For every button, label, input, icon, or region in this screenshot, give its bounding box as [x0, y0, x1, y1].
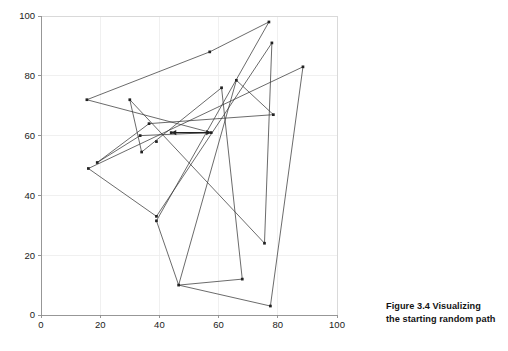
path-point-marker — [208, 51, 211, 54]
figure-container: 020406080100 020406080100 Figure 3.4 Vis… — [0, 0, 508, 351]
path-polyline — [87, 22, 303, 306]
path-point-marker — [148, 122, 151, 125]
path-point-marker — [96, 161, 99, 164]
x-axis-tick-labels: 020406080100 — [38, 319, 345, 330]
x-tick-label: 100 — [329, 319, 345, 330]
path-point-markers — [86, 21, 305, 308]
path-point-marker — [140, 151, 143, 154]
path-point-marker — [220, 86, 223, 89]
y-tick-label: 80 — [24, 70, 35, 81]
path-point-marker — [155, 215, 158, 218]
path-point-marker — [272, 113, 275, 116]
path-point-marker — [268, 21, 271, 24]
x-tick-label: 20 — [95, 319, 106, 330]
path-point-marker — [155, 219, 158, 222]
path-point-marker — [177, 284, 180, 287]
path-point-marker — [263, 242, 266, 245]
tick-marks — [38, 16, 337, 318]
path-point-marker — [241, 278, 244, 281]
path-point-marker — [269, 305, 272, 308]
y-tick-label: 100 — [19, 10, 35, 21]
path-point-marker — [302, 65, 305, 68]
y-tick-label: 60 — [24, 130, 35, 141]
y-tick-label: 0 — [30, 309, 35, 320]
random-path-chart: 020406080100 020406080100 — [0, 0, 508, 351]
path-point-marker — [87, 167, 90, 170]
figure-caption-line-1: Figure 3.4 Visualizing — [386, 301, 481, 311]
x-tick-label: 0 — [38, 319, 43, 330]
path-point-marker — [128, 98, 131, 101]
grid-lines — [41, 16, 337, 315]
path-point-marker — [271, 42, 274, 45]
path-point-marker — [139, 134, 142, 137]
tour-polyline — [87, 22, 303, 306]
path-point-marker — [86, 98, 89, 101]
y-axis-tick-labels: 020406080100 — [19, 10, 35, 320]
path-point-marker — [155, 140, 158, 143]
x-tick-label: 40 — [154, 319, 165, 330]
figure-caption: Figure 3.4 Visualizing the starting rand… — [386, 300, 504, 325]
annotation-arrowhead-right — [206, 130, 211, 135]
path-point-marker — [235, 79, 238, 82]
plot-frame — [41, 16, 337, 315]
x-tick-label: 60 — [213, 319, 224, 330]
y-tick-label: 40 — [24, 190, 35, 201]
y-tick-label: 20 — [24, 250, 35, 261]
x-tick-label: 80 — [273, 319, 284, 330]
axis-lines — [41, 16, 337, 315]
figure-caption-line-2: the starting random path — [386, 314, 495, 324]
